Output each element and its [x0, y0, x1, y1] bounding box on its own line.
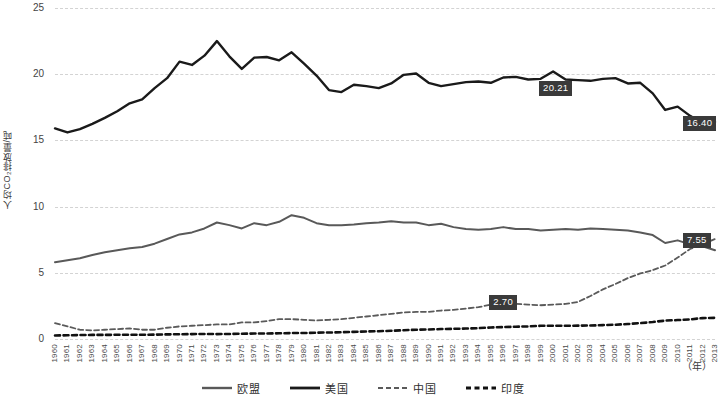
x-tick-label: 1967 — [138, 344, 146, 363]
x-tick-label: 1968 — [151, 344, 159, 363]
x-tick-label: 2002 — [574, 344, 582, 363]
series-layer — [55, 8, 715, 339]
legend-label: 印度 — [501, 380, 524, 396]
series-line — [55, 318, 715, 336]
y-tick-label: 10 — [18, 202, 44, 212]
x-tick-label: 2013 — [711, 344, 719, 363]
legend-swatch-icon — [378, 383, 408, 393]
series-line — [55, 41, 715, 132]
x-tick-label: 1996 — [499, 344, 507, 363]
legend-swatch-icon — [290, 383, 320, 393]
x-tick-label: 1986 — [375, 344, 383, 363]
x-tick-label: 1989 — [412, 344, 420, 363]
x-tick-label: 1963 — [88, 344, 96, 363]
x-tick-label: 1980 — [300, 344, 308, 363]
x-tick-label: 1973 — [213, 344, 221, 363]
x-tick-label: 2009 — [661, 344, 669, 363]
data-label: 20.21 — [539, 81, 572, 96]
x-tick-label: 1998 — [524, 344, 532, 363]
x-tick-label: 1991 — [437, 344, 445, 363]
x-tick-label: 1982 — [325, 344, 333, 363]
x-tick-label: 1981 — [313, 344, 321, 363]
legend-label: 欧盟 — [237, 380, 260, 396]
x-tick-label: 1993 — [462, 344, 470, 363]
x-tick-label: 1969 — [163, 344, 171, 363]
x-tick-label: 1976 — [250, 344, 258, 363]
x-tick-label: 1971 — [188, 344, 196, 363]
x-tick-label: 2004 — [599, 344, 607, 363]
line-chart: 人均CO₂排放量/吨 0510152025 196019611962196319… — [0, 0, 726, 399]
x-tick-label: 1999 — [537, 344, 545, 363]
plot-area — [55, 8, 715, 339]
x-tick-label: 1970 — [176, 344, 184, 363]
x-tick-label: 1961 — [63, 344, 71, 363]
x-tick-label: 2007 — [636, 344, 644, 363]
x-tick-label: 1966 — [126, 344, 134, 363]
x-tick-label: 1960 — [51, 344, 59, 363]
x-tick-label: 2001 — [562, 344, 570, 363]
y-tick-label: 15 — [18, 135, 44, 145]
series-line — [55, 239, 715, 330]
y-tick-label: 0 — [18, 334, 44, 344]
legend-swatch-icon — [202, 383, 232, 393]
y-tick-label: 5 — [18, 268, 44, 278]
x-tick-label: 1995 — [487, 344, 495, 363]
x-tick-label: 1979 — [288, 344, 296, 363]
x-tick-label: 1965 — [113, 344, 121, 363]
legend-item[interactable]: 印度 — [466, 380, 524, 396]
x-tick-label: 1962 — [76, 344, 84, 363]
x-tick-label: 2003 — [586, 344, 594, 363]
legend-label: 美国 — [325, 380, 348, 396]
x-tick-label: 1983 — [337, 344, 345, 363]
series-line — [55, 215, 715, 262]
legend-label: 中国 — [413, 380, 436, 396]
x-tick-label: 1984 — [350, 344, 358, 363]
x-tick-label: 1987 — [387, 344, 395, 363]
legend-item[interactable]: 美国 — [290, 380, 348, 396]
data-label: 16.40 — [683, 116, 716, 131]
x-tick-label: 1985 — [362, 344, 370, 363]
data-label: 2.70 — [489, 295, 517, 310]
x-tick-label: 1988 — [400, 344, 408, 363]
legend: 欧盟美国中国印度 — [0, 380, 726, 396]
x-tick-label: 2000 — [549, 344, 557, 363]
y-tick-label: 25 — [18, 3, 44, 13]
x-tick-label: 1990 — [425, 344, 433, 363]
x-tick-label: 1972 — [200, 344, 208, 363]
legend-item[interactable]: 中国 — [378, 380, 436, 396]
x-tick-label: 2010 — [674, 344, 682, 363]
x-tick-label: 1975 — [238, 344, 246, 363]
x-tick-label: 1994 — [474, 344, 482, 363]
legend-item[interactable]: 欧盟 — [202, 380, 260, 396]
x-tick-label: 1978 — [275, 344, 283, 363]
x-tick-label: 1992 — [449, 344, 457, 363]
x-tick-label: 2008 — [649, 344, 657, 363]
x-tick-label: 2006 — [624, 344, 632, 363]
x-tick-label: 2005 — [611, 344, 619, 363]
gridline — [55, 339, 715, 340]
x-tick-label: 1997 — [512, 344, 520, 363]
legend-swatch-icon — [466, 383, 496, 393]
x-axis-caption: （年） — [682, 358, 712, 373]
x-tick-label: 1977 — [263, 344, 271, 363]
x-tick-label: 1974 — [225, 344, 233, 363]
y-tick-label: 20 — [18, 69, 44, 79]
data-label: 7.55 — [683, 233, 711, 248]
x-tick-label: 1964 — [101, 344, 109, 363]
